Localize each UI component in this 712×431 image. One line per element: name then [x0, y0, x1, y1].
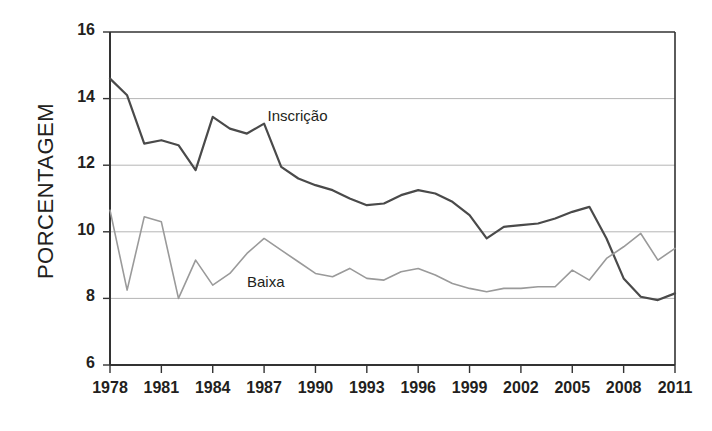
series-line-2	[110, 210, 675, 298]
y-axis-tick-label: 14	[49, 88, 95, 106]
x-axis-tick-label: 2011	[645, 379, 705, 397]
y-axis-tick-label: 6	[49, 354, 95, 372]
series-label-1: Inscrição	[268, 107, 328, 124]
chart-container: PORCENTAGEM 1614121086197819811984198719…	[0, 0, 712, 431]
y-axis-tick-label: 12	[49, 154, 95, 172]
series-label-2: Baixa	[247, 273, 285, 290]
y-axis-tick-label: 10	[49, 221, 95, 239]
y-axis-tick-label: 16	[49, 21, 95, 39]
series-line-1	[110, 79, 675, 300]
plot-area	[0, 0, 712, 431]
y-axis-tick-label: 8	[49, 287, 95, 305]
